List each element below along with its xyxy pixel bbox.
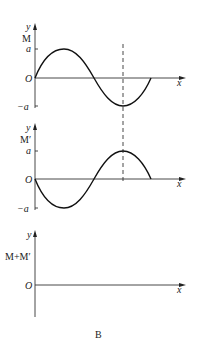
y-label: y <box>25 122 31 133</box>
panel-m: y M a O −a x <box>17 21 186 112</box>
panel-m-prime: y M′ a O −a x <box>17 122 186 214</box>
x-label: x <box>176 284 182 295</box>
y-label: y <box>25 21 31 32</box>
y-axis-arrow-icon <box>33 230 37 237</box>
origin-label: O <box>25 280 32 291</box>
wave-superposition-diagram: y M a O −a x y M′ a O −a x y M+M′ O x B <box>0 0 197 346</box>
series-label: M′ <box>20 134 31 145</box>
series-label: M+M′ <box>5 251 31 262</box>
x-label: x <box>176 178 182 189</box>
x-label: x <box>176 77 182 88</box>
tick-label-neg-a: −a <box>17 203 29 214</box>
y-axis-arrow-icon <box>33 23 37 30</box>
origin-label: O <box>25 174 32 185</box>
tick-label-neg-a: −a <box>17 101 29 112</box>
wave-m-prime-curve <box>35 151 151 208</box>
wave-m-curve <box>35 49 151 106</box>
tick-label-a: a <box>26 43 31 54</box>
figure-label: B <box>95 329 102 340</box>
origin-label: O <box>25 73 32 84</box>
y-label: y <box>26 229 32 240</box>
panel-m-plus-m-prime: y M+M′ O x <box>5 229 186 317</box>
y-axis-arrow-icon <box>33 123 37 130</box>
tick-label-a: a <box>26 145 31 156</box>
